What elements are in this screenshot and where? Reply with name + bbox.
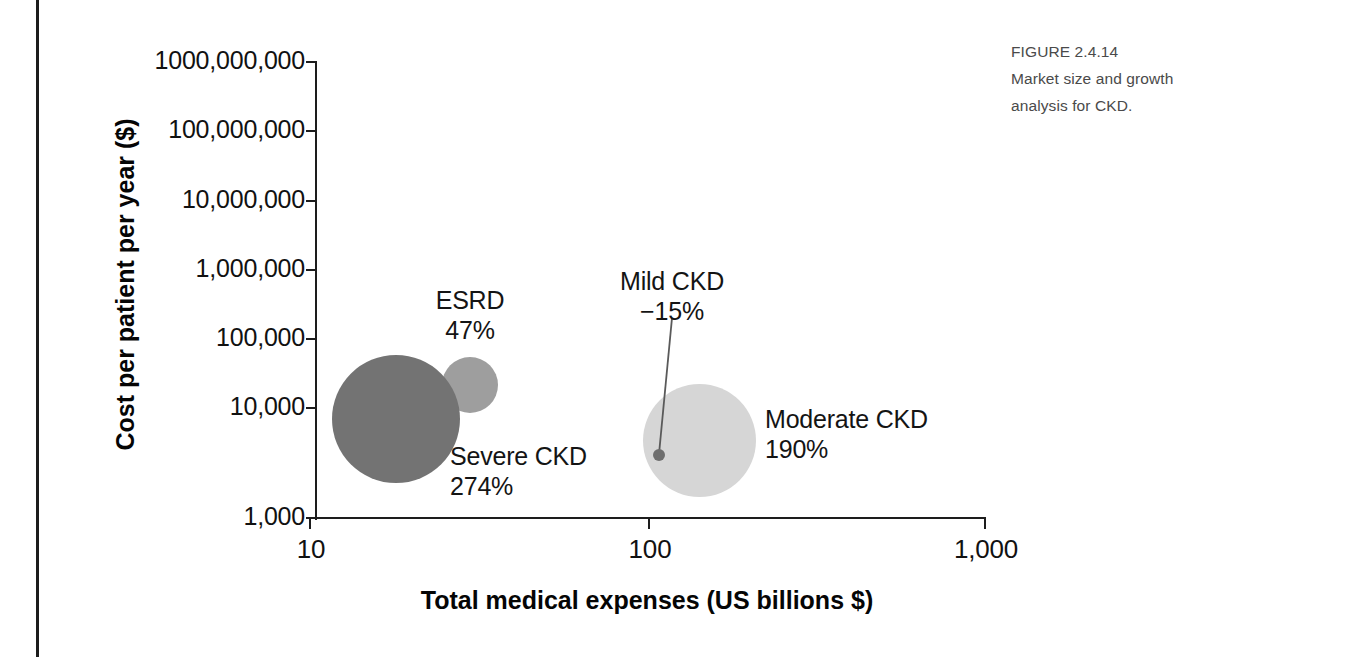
- figure-caption-number: FIGURE 2.4.14: [1011, 38, 1311, 65]
- y-tick-label: 10,000,000: [182, 185, 305, 214]
- label-mild-ckd-growth: −15%: [620, 296, 724, 326]
- label-mild-ckd-name: Mild CKD: [620, 266, 724, 296]
- y-tick-label: 1,000: [243, 502, 305, 531]
- figure-caption-text-line-2: analysis for CKD.: [1011, 92, 1311, 119]
- bubble-mild-ckd[interactable]: [653, 449, 665, 461]
- x-tick-mark: [309, 518, 311, 529]
- label-severe-ckd: Severe CKD 274%: [450, 441, 587, 501]
- figure-caption-text-line-1: Market size and growth: [1011, 65, 1311, 92]
- y-axis-title: Cost per patient per year ($): [111, 35, 140, 535]
- label-esrd: ESRD 47%: [436, 285, 505, 345]
- y-tick-mark: [306, 61, 316, 63]
- label-moderate-ckd: Moderate CKD 190%: [765, 404, 928, 464]
- y-tick-mark: [306, 338, 316, 340]
- figure-caption: FIGURE 2.4.14 Market size and growth ana…: [1011, 38, 1311, 119]
- x-axis-line: [308, 517, 986, 519]
- y-tick-label: 10,000: [230, 392, 305, 421]
- label-esrd-name: ESRD: [436, 285, 505, 315]
- label-moderate-ckd-growth: 190%: [765, 434, 928, 464]
- mild-ckd-leader-line: [650, 318, 680, 460]
- x-axis-title: Total medical expenses (US billions $): [308, 586, 986, 615]
- figure-page: 1000,000,000 100,000,000 10,000,000 1,00…: [0, 0, 1365, 657]
- x-tick-mark: [648, 518, 650, 529]
- y-tick-mark: [306, 200, 316, 202]
- y-tick-mark: [306, 517, 316, 519]
- y-tick-mark: [306, 269, 316, 271]
- y-tick-mark: [306, 407, 316, 409]
- label-mild-ckd: Mild CKD −15%: [620, 266, 724, 326]
- y-tick-label: 100,000: [216, 323, 305, 352]
- label-severe-ckd-growth: 274%: [450, 471, 587, 501]
- bubble-severe-ckd[interactable]: [332, 355, 460, 483]
- x-tick-label: 100: [629, 534, 672, 565]
- label-esrd-growth: 47%: [436, 315, 505, 345]
- y-tick-mark: [306, 130, 316, 132]
- x-tick-label: 1,000: [954, 534, 1018, 565]
- label-moderate-ckd-name: Moderate CKD: [765, 404, 928, 434]
- y-tick-label: 100,000,000: [168, 115, 305, 144]
- y-tick-label: 1000,000,000: [154, 46, 305, 75]
- x-tick-label: 10: [297, 534, 326, 565]
- x-tick-mark: [984, 518, 986, 529]
- y-tick-label: 1,000,000: [196, 254, 305, 283]
- label-severe-ckd-name: Severe CKD: [450, 441, 587, 471]
